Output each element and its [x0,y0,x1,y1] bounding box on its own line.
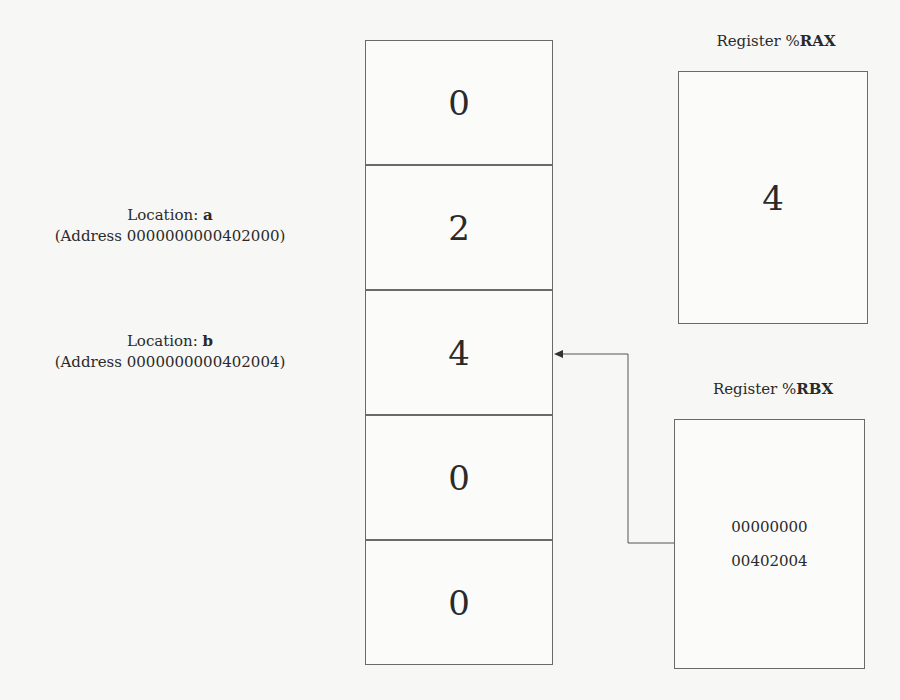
title-name: RAX [800,32,836,50]
cell-value: 2 [448,208,470,248]
location-a-label: Location: a (Address 0000000000402000) [0,205,340,247]
cell-value: 0 [448,583,470,623]
cell-value: 0 [448,458,470,498]
memory-cell-3: 0 [365,415,553,540]
register-rax-box: 4 [678,71,868,324]
title-name: RBX [796,380,833,398]
memory-cell-2-location-b: 4 [365,290,553,415]
register-rbx-box: 00000000 00402004 [674,419,865,669]
cell-value: 0 [448,83,470,123]
memory-cell-4: 0 [365,540,553,665]
memory-cell-0: 0 [365,40,553,165]
register-value-high: 00000000 [731,510,807,544]
arrowhead-icon [554,350,563,358]
label-name: b [203,332,214,350]
label-prefix: Location: [127,206,203,224]
title-prefix: Register % [716,32,799,50]
register-rbx-title: Register %RBX [673,380,873,398]
label-address: (Address 0000000000402004) [0,352,340,373]
register-rax-title: Register %RAX [676,32,876,50]
label-name: a [203,206,213,224]
register-value: 4 [762,178,784,218]
title-prefix: Register % [713,380,796,398]
register-value-low: 00402004 [731,544,807,578]
location-b-label: Location: b (Address 0000000000402004) [0,331,340,373]
cell-value: 4 [448,333,470,373]
memory-cell-1-location-a: 2 [365,165,553,290]
label-address: (Address 0000000000402000) [0,226,340,247]
label-prefix: Location: [127,332,203,350]
